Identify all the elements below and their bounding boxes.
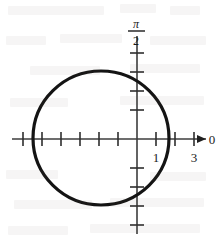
x-tick-label-3: 3: [191, 150, 198, 165]
horizontal-axis: [12, 135, 206, 143]
theta-zero-axis-label: 0: [209, 132, 216, 147]
polar-plot-canvas: 0 π 2 1 3: [0, 0, 224, 238]
polar-graph-figure: 0 π 2 1 3: [0, 0, 224, 238]
circle-curve: [33, 71, 169, 205]
horizontal-axis-arrowhead-icon: [197, 135, 206, 143]
pi-over-two-denominator-label: 2: [133, 34, 139, 48]
x-tick-label-1: 1: [153, 150, 160, 165]
pi-over-two-numerator-label: π: [133, 17, 140, 31]
